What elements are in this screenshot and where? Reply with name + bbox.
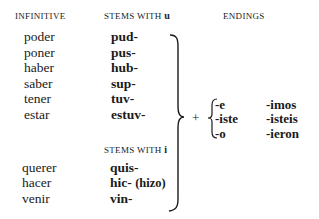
header-stems-u-prefix: STEMS WITH	[104, 11, 164, 21]
stem-quis: quis-	[110, 160, 139, 175]
ending-e: -e	[215, 97, 225, 112]
ending-ieron: -ieron	[266, 126, 299, 141]
infinitive-estar: estar	[24, 107, 49, 122]
header-stems-u-letter: u	[164, 10, 170, 21]
header-infinitive: INFINITIVE	[15, 11, 66, 21]
infinitive-tener: tener	[24, 91, 51, 106]
infinitive-haber: haber	[24, 60, 54, 75]
plus-operator: +	[192, 110, 199, 125]
stem-tuv: tuv-	[111, 91, 134, 106]
stem-estuv: estuv-	[111, 107, 146, 122]
infinitive-hacer: hacer	[22, 175, 51, 190]
infinitive-venir: venir	[22, 191, 50, 206]
stem-hub: hub-	[111, 60, 138, 75]
header-endings: ENDINGS	[223, 11, 265, 21]
stem-hic: hic- (hizo)	[110, 175, 166, 191]
stem-vin: vin-	[110, 191, 133, 206]
infinitive-saber: saber	[24, 76, 52, 91]
header-stems-with-u: STEMS WITH u	[104, 11, 170, 21]
ending-isteis: -isteis	[266, 111, 298, 126]
stem-hic-note: (hizo)	[135, 176, 166, 190]
ending-iste: -iste	[215, 111, 238, 126]
infinitive-poder: poder	[24, 29, 55, 44]
stem-pus: pus-	[111, 45, 136, 60]
ending-o: -o	[215, 126, 226, 141]
header-stems-with-i: STEMS WITH i	[104, 145, 167, 155]
infinitive-poner: poner	[24, 45, 55, 60]
stem-pud: pud-	[111, 29, 138, 44]
infinitive-querer: querer	[22, 160, 56, 175]
stem-sup: sup-	[111, 76, 136, 91]
ending-imos: -imos	[266, 97, 296, 112]
stem-hic-text: hic-	[110, 175, 132, 190]
large-brace-icon	[165, 33, 189, 213]
header-stems-i-prefix: STEMS WITH	[104, 145, 164, 155]
